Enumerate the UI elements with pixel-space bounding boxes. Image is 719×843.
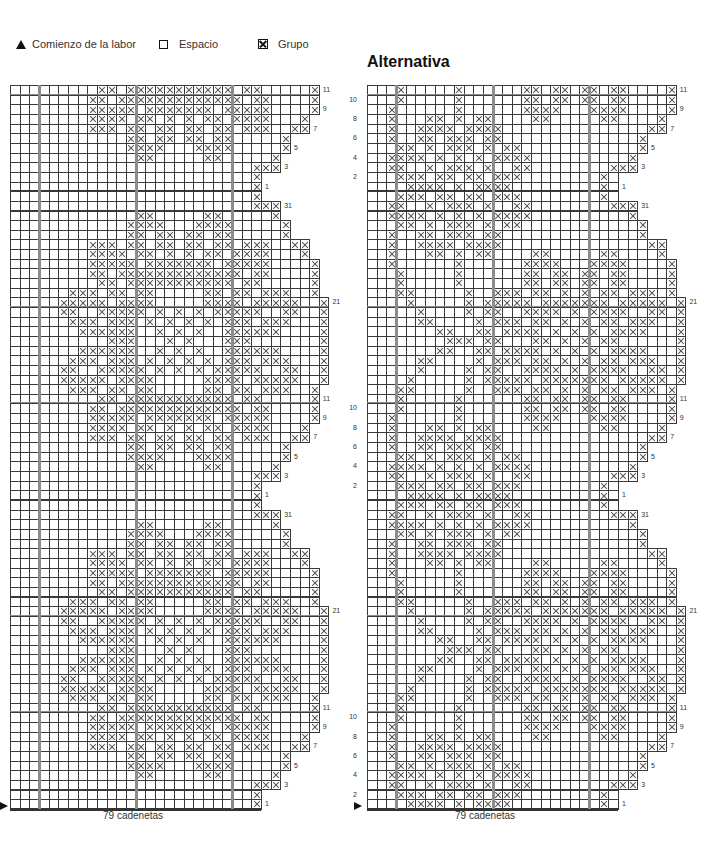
row-number-label-left: 8: [345, 115, 357, 122]
row-number-label: 9: [680, 105, 684, 112]
row-number-label-left: 10: [345, 96, 357, 103]
legend-space: Espacio: [159, 38, 218, 50]
group-cell: [309, 104, 320, 115]
row-number-label: 7: [670, 125, 674, 132]
legend-group: Grupo: [258, 38, 309, 50]
group-cell: [637, 452, 648, 463]
column-guide: [231, 85, 234, 809]
row-number-label: 1: [265, 800, 269, 807]
row-number-label: 1: [622, 183, 626, 190]
group-cell: [300, 124, 311, 135]
row-number-label-left: 4: [345, 771, 357, 778]
group-cell: [271, 471, 282, 482]
row-number-label-left: 2: [345, 173, 357, 180]
row-number-label: 21: [332, 298, 340, 305]
start-arrow-left-icon: [0, 802, 8, 810]
row-number-label: 7: [670, 433, 674, 440]
row-number-label: 21: [332, 607, 340, 614]
row-number-label: 5: [651, 453, 655, 460]
row-number-label-left: 8: [345, 424, 357, 431]
legend-space-label: Espacio: [179, 38, 218, 50]
row-number-label: 3: [641, 163, 645, 170]
alternative-title: Alternativa: [367, 53, 450, 71]
row-number-label: 21: [689, 298, 697, 305]
group-cell: [666, 104, 677, 115]
group-cell: [309, 413, 320, 424]
column-guide: [135, 85, 138, 809]
row-number-label: 21: [689, 607, 697, 614]
group-cell: [319, 683, 330, 694]
group-cell: [676, 375, 687, 386]
group-cell: [309, 722, 320, 733]
group-cell: [657, 741, 668, 752]
group-cell: [280, 452, 291, 463]
row-number-label: 5: [294, 453, 298, 460]
row-number-label: 5: [651, 144, 655, 151]
row-number-label: 7: [313, 742, 317, 749]
column-guide: [492, 85, 495, 809]
group-cell: [271, 780, 282, 791]
legend-group-label: Grupo: [278, 38, 309, 50]
row-number-label: 3: [641, 472, 645, 479]
group-cell: [628, 471, 639, 482]
row-number-label: 5: [294, 144, 298, 151]
row-number-label: 1: [265, 491, 269, 498]
group-cell: [300, 432, 311, 443]
group-cell: [271, 162, 282, 173]
row-number-label: 11: [680, 86, 687, 93]
row-number-label-left: 4: [345, 154, 357, 161]
group-cell: [666, 413, 677, 424]
row-number-label-left: 6: [345, 752, 357, 759]
row-number-label: 5: [651, 762, 655, 769]
group-cell: [280, 143, 291, 154]
row-number-label: 31: [641, 202, 649, 209]
row-number-label: 3: [284, 472, 288, 479]
row-number-label: 31: [284, 511, 292, 518]
row-number-label: 11: [323, 704, 330, 711]
row-number-label-left: 6: [345, 443, 357, 450]
row-number-label: 5: [294, 762, 298, 769]
start-arrow-right-icon: [354, 802, 362, 810]
row-number-label: 3: [284, 163, 288, 170]
triangle-icon: [16, 40, 26, 49]
group-cell: [628, 780, 639, 791]
row-number-label: 11: [680, 395, 687, 402]
group-cell: [300, 741, 311, 752]
column-guide: [395, 85, 398, 809]
row-number-label: 3: [641, 781, 645, 788]
row-number-label: 9: [323, 723, 327, 730]
group-cell: [637, 761, 648, 772]
row-number-label: 31: [641, 511, 649, 518]
row-number-label: 3: [284, 781, 288, 788]
group-cell: [280, 761, 291, 772]
column-guide: [588, 85, 591, 809]
crossed-square-icon: [258, 39, 268, 49]
row-number-label-left: 8: [345, 733, 357, 740]
row-number-label: 9: [323, 414, 327, 421]
column-guide: [38, 85, 41, 809]
row-number-label: 7: [670, 742, 674, 749]
row-number-label-left: 2: [345, 482, 357, 489]
row-number-label: 1: [265, 183, 269, 190]
row-number-label: 31: [284, 202, 292, 209]
row-number-label-left: 2: [345, 791, 357, 798]
group-cell: [676, 683, 687, 694]
row-number-label: 9: [680, 414, 684, 421]
row-number-label: 9: [680, 723, 684, 730]
empty-square-icon: [159, 40, 168, 49]
row-number-label-left: 4: [345, 462, 357, 469]
group-cell: [657, 124, 668, 135]
row-number-label: 1: [622, 491, 626, 498]
footer-right-count: 79 cadenetas: [455, 810, 515, 821]
group-cell: [628, 162, 639, 173]
row-number-label: 7: [313, 433, 317, 440]
group-cell: [666, 722, 677, 733]
group-cell: [637, 143, 648, 154]
row-number-label: 11: [323, 395, 330, 402]
legend-start: Comienzo de la labor: [16, 38, 136, 50]
row-number-label: 11: [323, 86, 330, 93]
row-number-label: 1: [622, 800, 626, 807]
row-number-label-left: 10: [345, 404, 357, 411]
row-number-label-left: 6: [345, 134, 357, 141]
row-number-label: 7: [313, 125, 317, 132]
